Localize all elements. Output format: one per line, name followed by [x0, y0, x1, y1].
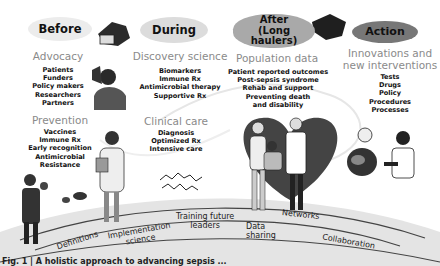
list-item: Diagnosis — [136, 129, 216, 137]
innovations-list: Tests Drugs Policy Procedures Processes — [350, 73, 430, 114]
discovery-science-list: Biomarkers Immune Rx Antimicrobial thera… — [130, 67, 230, 100]
phase-action: Action — [352, 21, 418, 43]
training-line1: Training future — [176, 212, 234, 221]
list-item: Preventing death — [228, 93, 328, 101]
list-item: Policy makers — [18, 82, 98, 90]
list-item: Antimicrobial — [18, 153, 102, 161]
list-item: Partners — [18, 99, 98, 107]
list-item: Biomarkers — [130, 67, 230, 75]
clinical-care-title: Clinical care — [136, 115, 216, 127]
list-item: and disability — [228, 101, 328, 109]
foundation-data-sharing: Data sharing — [246, 222, 276, 240]
innovations-title-line2: new interventions — [340, 59, 440, 71]
prevention-title: Prevention — [18, 114, 102, 126]
phase-before-label: Before — [39, 23, 82, 35]
data-sharing-line2: sharing — [246, 231, 276, 240]
list-item: Antimicrobial therapy — [130, 83, 230, 91]
doctor-with-clipboard-figure — [384, 131, 414, 178]
list-item: Supportive Rx — [130, 92, 230, 100]
prevention-list: Vaccines Immune Rx Early recognition Ant… — [18, 128, 102, 169]
list-item: Processes — [350, 106, 430, 114]
clinical-care-list: Diagnosis Optimized Rx Intensive care — [136, 129, 216, 154]
phase-action-label: Action — [365, 26, 404, 38]
list-item: Early recognition — [18, 144, 102, 152]
list-item: Patient reported outcomes — [228, 68, 328, 76]
parent-with-baby-figure — [347, 128, 377, 176]
germ-icon — [73, 192, 87, 200]
population-data-title: Population data — [232, 52, 322, 64]
list-item: Intensive care — [136, 145, 216, 153]
list-item: Post-sepsis syndrome — [228, 76, 328, 84]
figure-caption: Fig. 1 | A holistic approach to advancin… — [2, 257, 227, 266]
innovations-title: Innovations and new interventions — [340, 47, 440, 71]
phase-during: During — [140, 17, 208, 43]
handshake-icon — [98, 22, 130, 46]
phase-before: Before — [28, 17, 92, 41]
list-item: Vaccines — [18, 128, 102, 136]
population-data-list: Patient reported outcomes Post-sepsis sy… — [228, 68, 328, 109]
advocacy-list: Patients Funders Policy makers Researche… — [18, 66, 98, 107]
molecule-icon — [160, 173, 202, 190]
advocacy-title: Advocacy — [20, 50, 96, 62]
innovations-title-line1: Innovations and — [340, 47, 440, 59]
list-item: Tests — [350, 73, 430, 81]
list-item: Procedures — [350, 98, 430, 106]
list-item: Immune Rx — [18, 136, 102, 144]
list-item: Optimized Rx — [136, 137, 216, 145]
phase-after: After (Long haulers) — [233, 14, 315, 48]
list-item: Patients — [18, 66, 98, 74]
discovery-science-title: Discovery science — [130, 50, 230, 62]
phase-after-sublabel: (Long haulers) — [233, 26, 315, 47]
list-item: Immune Rx — [130, 75, 230, 83]
list-item: Researchers — [18, 91, 98, 99]
list-item: Resistance — [18, 161, 102, 169]
training-line2: leaders — [176, 221, 234, 230]
list-item: Policy — [350, 89, 430, 97]
foundation-training-future-leaders: Training future leaders — [176, 212, 234, 230]
data-sharing-line1: Data — [246, 222, 276, 231]
list-item: Rehab and support — [228, 84, 328, 92]
list-item: Drugs — [350, 81, 430, 89]
list-item: Funders — [18, 74, 98, 82]
handshake-icon-right — [312, 14, 346, 40]
phase-during-label: During — [152, 24, 196, 36]
